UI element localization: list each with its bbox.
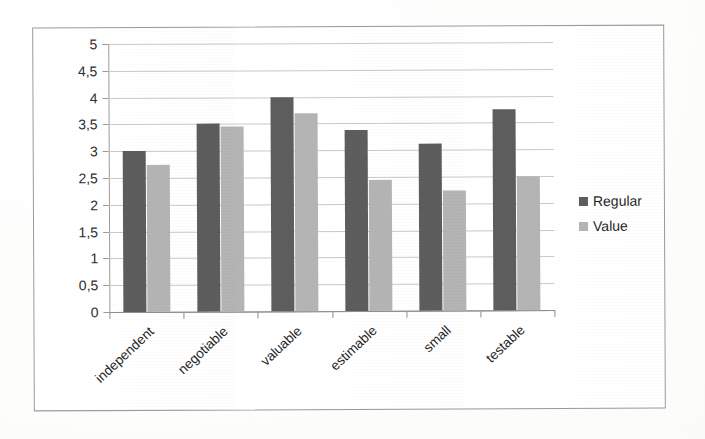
bar-regular-independent xyxy=(122,151,146,312)
bar-regular-negotiable xyxy=(196,124,220,312)
y-axis-tick xyxy=(103,232,109,233)
gridline xyxy=(109,149,554,152)
gridline xyxy=(109,256,554,259)
y-axis-tick xyxy=(102,98,108,99)
x-axis-tick xyxy=(184,313,185,319)
y-axis-tick-label: 0 xyxy=(52,305,98,319)
gridline xyxy=(109,230,554,233)
legend-swatch-icon xyxy=(579,196,588,205)
gridline xyxy=(109,283,554,286)
gridline xyxy=(108,96,553,99)
y-axis-tick-label: 3 xyxy=(52,144,98,158)
chart-frame: 00,511,522,533,544,55 independentnegotia… xyxy=(32,25,666,412)
y-axis-tick-label: 4 xyxy=(51,91,97,105)
y-axis-tick-label: 5 xyxy=(51,37,97,51)
x-axis-tick xyxy=(480,311,481,317)
y-axis-tick-label: 0,5 xyxy=(52,278,98,292)
y-axis-tick xyxy=(103,178,109,179)
bar-value-valuable xyxy=(294,113,318,311)
y-axis-tick-label: 2,5 xyxy=(52,171,98,185)
y-axis-tick xyxy=(102,44,108,45)
bar-value-small xyxy=(443,191,467,311)
x-axis-tick xyxy=(332,312,333,318)
bar-value-testable xyxy=(517,176,541,310)
y-axis-tick-label: 4,5 xyxy=(51,64,97,78)
bar-regular-testable xyxy=(493,109,517,310)
legend-label: Value xyxy=(593,219,628,233)
bar-value-independent xyxy=(146,164,170,311)
gridline xyxy=(108,69,553,72)
x-axis-tick xyxy=(406,312,407,318)
y-axis-tick xyxy=(103,285,109,286)
y-axis-tick-label: 3,5 xyxy=(52,117,98,131)
y-axis-tick xyxy=(103,258,109,259)
bar-value-estimable xyxy=(369,179,393,310)
chart-page: { "chart_data": { "type": "bar", "title"… xyxy=(0,0,705,439)
plot-area xyxy=(108,42,554,312)
y-axis-tick-label: 1,5 xyxy=(52,225,98,239)
bar-regular-small xyxy=(419,143,443,310)
legend-swatch-icon xyxy=(579,221,588,230)
y-axis-tick-label: 1 xyxy=(52,251,98,265)
y-axis-tick xyxy=(103,205,109,206)
chart-legend: RegularValue xyxy=(579,194,642,244)
gridline xyxy=(109,122,554,125)
y-axis-tick xyxy=(103,151,109,152)
bar-regular-valuable xyxy=(270,97,294,311)
x-axis-tick xyxy=(258,312,259,318)
y-axis-tick-label: 2 xyxy=(52,198,98,212)
legend-item-regular: Regular xyxy=(579,194,642,208)
x-axis-tick xyxy=(109,313,110,319)
gridline xyxy=(109,176,554,179)
y-axis-tick xyxy=(103,124,109,125)
bar-regular-estimable xyxy=(345,130,369,311)
gridline xyxy=(109,203,554,206)
legend-label: Regular xyxy=(593,194,642,208)
bar-value-negotiable xyxy=(220,127,244,312)
legend-item-value: Value xyxy=(579,219,642,233)
x-axis-tick xyxy=(554,311,555,317)
y-axis-tick xyxy=(102,71,108,72)
